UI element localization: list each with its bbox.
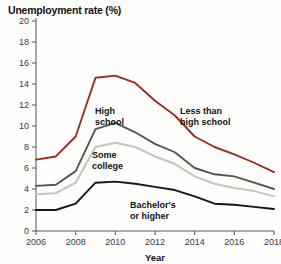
y-tick-label: 20 bbox=[19, 16, 29, 26]
y-tick-label: 4 bbox=[24, 184, 29, 194]
x-tick-label: 2006 bbox=[26, 237, 46, 247]
y-axis-group: 02468101214161820 bbox=[19, 16, 36, 236]
y-tick-label: 18 bbox=[19, 37, 29, 47]
series-lines bbox=[36, 76, 274, 210]
chart-plot-area: 02468101214161820 2006200820102012201420… bbox=[0, 0, 281, 264]
y-tick-label: 12 bbox=[19, 100, 29, 110]
series-annotation-high-school: Highschool bbox=[95, 106, 124, 127]
y-tick-label: 6 bbox=[24, 163, 29, 173]
series-annotation-some-college: Somecollege bbox=[92, 150, 123, 171]
series-annotations: HighschoolLess thanhigh schoolSomecolleg… bbox=[92, 106, 231, 221]
y-tick-label: 8 bbox=[24, 142, 29, 152]
x-tick-label: 2008 bbox=[66, 237, 86, 247]
x-tick-label: 2016 bbox=[224, 237, 244, 247]
x-axis-group: 2006200820102012201420162018 bbox=[26, 231, 281, 247]
series-annotation-less-than-high-school: Less thanhigh school bbox=[180, 106, 231, 127]
y-axis-ticks: 02468101214161820 bbox=[19, 16, 36, 236]
y-tick-label: 0 bbox=[24, 226, 29, 236]
y-tick-label: 2 bbox=[24, 205, 29, 215]
x-tick-label: 2014 bbox=[185, 237, 205, 247]
unemployment-rate-chart: Unemployment rate (%) 02468101214161820 … bbox=[0, 0, 281, 264]
x-tick-label: 2018 bbox=[264, 237, 281, 247]
x-axis-ticks: 2006200820102012201420162018 bbox=[26, 231, 281, 247]
y-tick-label: 14 bbox=[19, 79, 29, 89]
x-axis-title: Year bbox=[145, 252, 165, 263]
x-tick-label: 2012 bbox=[145, 237, 165, 247]
series-line-less-than-high-school bbox=[36, 76, 274, 173]
series-line-some-college bbox=[36, 143, 274, 197]
series-annotation-bachelor-s-or-higher: Bachelor'sor higher bbox=[130, 200, 176, 221]
x-tick-label: 2010 bbox=[105, 237, 125, 247]
y-tick-label: 16 bbox=[19, 58, 29, 68]
y-tick-label: 10 bbox=[19, 121, 29, 131]
